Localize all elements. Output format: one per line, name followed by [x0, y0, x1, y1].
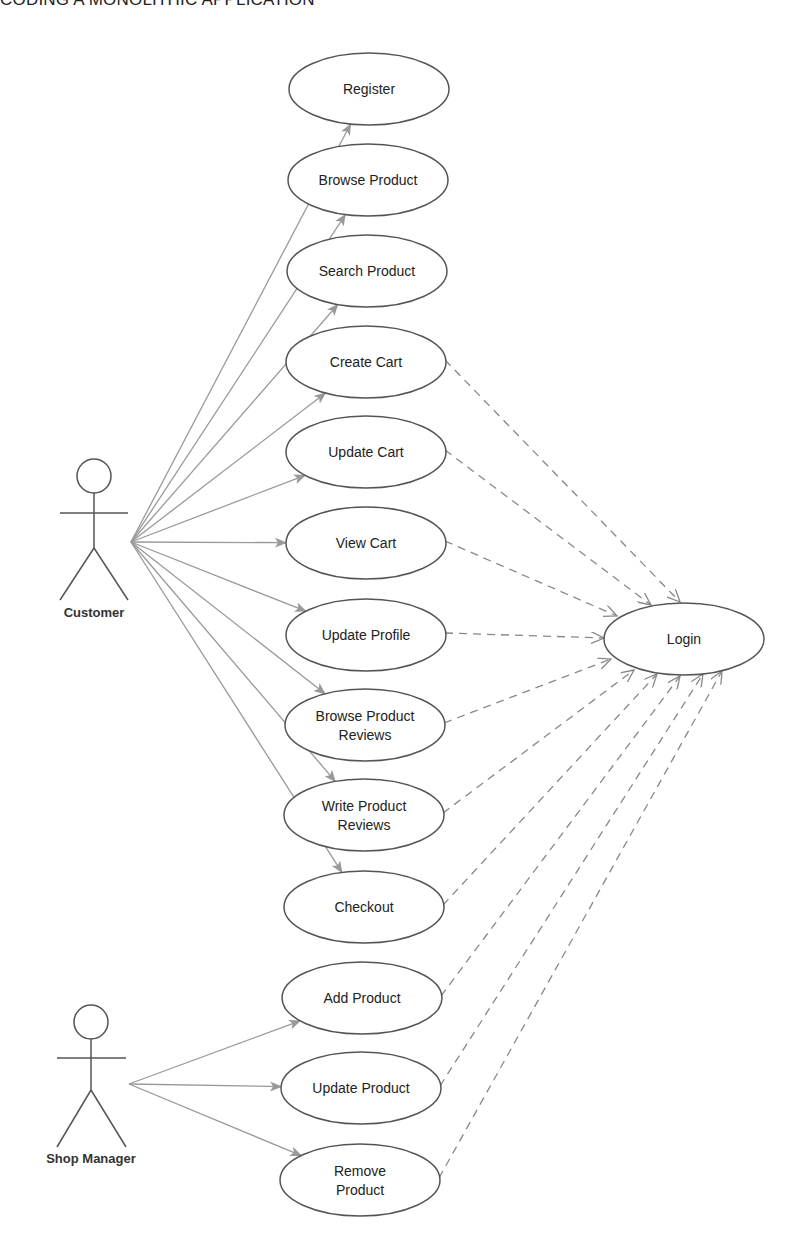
use-case-label: Reviews — [338, 817, 391, 833]
actor-shop-manager: Shop Manager — [46, 1005, 136, 1166]
actor-head-icon — [77, 459, 111, 493]
use-case-label: Browse Product — [319, 172, 418, 188]
use-case-diagram: RegisterBrowse ProductSearch ProductCrea… — [0, 0, 805, 1252]
actor-head-icon — [74, 1005, 108, 1039]
use-case-login[interactable]: Login — [604, 603, 764, 675]
include-arrow — [439, 671, 722, 1178]
use-case-label: View Cart — [336, 535, 397, 551]
actor-label: Shop Manager — [46, 1151, 136, 1166]
use-case-write-product-reviews[interactable]: Write ProductReviews — [284, 779, 444, 851]
use-case-label: Update Product — [312, 1080, 409, 1096]
include-arrow — [445, 633, 604, 638]
login-label: Login — [667, 631, 701, 647]
use-case-view-cart[interactable]: View Cart — [286, 507, 446, 579]
include-arrow — [444, 659, 611, 723]
use-case-label: Update Profile — [322, 627, 411, 643]
use-case-ellipse[interactable] — [280, 1144, 440, 1216]
association-arrow — [131, 542, 286, 543]
use-case-ellipse[interactable] — [285, 689, 445, 761]
login-use-case: Login — [604, 603, 764, 675]
use-case-search-product[interactable]: Search Product — [287, 235, 447, 307]
use-case-label: Reviews — [339, 727, 392, 743]
include-arrows — [439, 360, 722, 1178]
use-case-label: Browse Product — [316, 708, 415, 724]
actor-right-leg — [94, 548, 128, 600]
include-arrow — [445, 450, 651, 605]
include-arrow — [440, 674, 703, 1086]
use-case-add-product[interactable]: Add Product — [282, 962, 442, 1034]
include-arrow — [443, 674, 657, 905]
association-arrow — [129, 1021, 300, 1084]
actor-left-leg — [60, 548, 94, 600]
use-case-label: Search Product — [319, 263, 416, 279]
use-cases: RegisterBrowse ProductSearch ProductCrea… — [280, 53, 449, 1216]
actor-left-leg — [57, 1090, 91, 1147]
association-arrow — [129, 1084, 301, 1156]
use-case-label: Remove — [334, 1163, 386, 1179]
use-case-label: Create Cart — [330, 354, 402, 370]
association-arrow — [131, 542, 306, 611]
association-arrow — [131, 475, 305, 542]
use-case-update-product[interactable]: Update Product — [281, 1052, 441, 1124]
use-case-ellipse[interactable] — [284, 779, 444, 851]
actor-customer: Customer — [60, 459, 128, 620]
use-case-update-profile[interactable]: Update Profile — [286, 599, 446, 671]
include-arrow — [445, 541, 617, 616]
use-case-browse-product[interactable]: Browse Product — [288, 144, 448, 216]
use-case-browse-product-reviews[interactable]: Browse ProductReviews — [285, 689, 445, 761]
use-case-label: Add Product — [323, 990, 400, 1006]
use-case-label: Write Product — [322, 798, 407, 814]
use-case-label: Product — [336, 1182, 384, 1198]
actor-right-leg — [91, 1090, 126, 1147]
use-case-label: Update Cart — [328, 444, 404, 460]
actor-label: Customer — [64, 605, 125, 620]
use-case-remove-product[interactable]: RemoveProduct — [280, 1144, 440, 1216]
use-case-create-cart[interactable]: Create Cart — [286, 326, 446, 398]
use-case-label: Register — [343, 81, 395, 97]
actors: CustomerShop Manager — [46, 459, 136, 1166]
use-case-checkout[interactable]: Checkout — [284, 871, 444, 943]
include-arrow — [445, 360, 680, 602]
association-arrow — [129, 1084, 281, 1087]
include-arrow — [441, 676, 680, 996]
use-case-register[interactable]: Register — [289, 53, 449, 125]
include-arrow — [443, 670, 634, 813]
use-case-update-cart[interactable]: Update Cart — [286, 416, 446, 488]
use-case-label: Checkout — [334, 899, 393, 915]
